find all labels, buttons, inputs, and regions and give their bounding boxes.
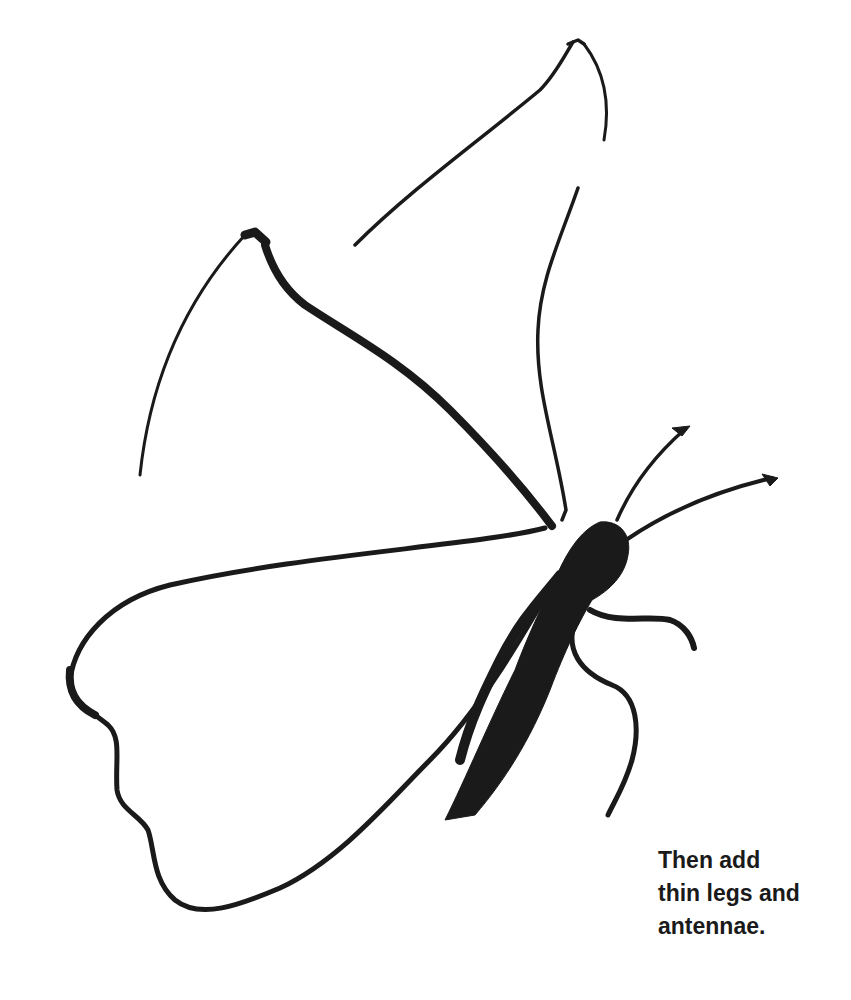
- upper-left-forewing: [140, 232, 552, 526]
- caption-line-3: antennae.: [658, 910, 848, 943]
- instruction-caption: Then add thin legs and antennae.: [658, 844, 848, 943]
- upper-right-forewing: [355, 40, 607, 520]
- butterfly-body: [445, 522, 629, 820]
- caption-line-2: thin legs and: [658, 877, 848, 910]
- butterfly-legs: [572, 610, 694, 815]
- butterfly-antennae: [617, 426, 778, 540]
- illustration-page: Then add thin legs and antennae.: [0, 0, 851, 1000]
- lower-hindwing: [70, 528, 555, 910]
- caption-line-1: Then add: [658, 844, 848, 877]
